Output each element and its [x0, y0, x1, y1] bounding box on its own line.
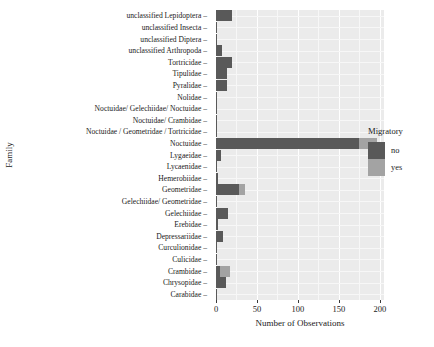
bar-segment-no [216, 219, 218, 230]
y-axis-tick-label: Curculionidae – [14, 243, 214, 252]
gridline-horizontal [216, 16, 384, 17]
bar-row [216, 208, 228, 219]
bar-segment-no [216, 34, 217, 45]
gridline-horizontal [216, 271, 384, 272]
bar-row [216, 231, 223, 242]
bar-segment-no [216, 196, 217, 207]
bar-segment-no [216, 184, 239, 195]
legend-item[interactable]: yes [368, 159, 434, 176]
bar-row [216, 219, 218, 230]
legend-items: noyes [368, 142, 434, 176]
x-axis-tick-label: 100 [292, 304, 305, 314]
gridline-horizontal [216, 236, 384, 237]
bar-row [216, 92, 217, 103]
bar-segment-no [216, 277, 226, 288]
bar-segment-no [216, 150, 221, 161]
gridline-horizontal [216, 259, 384, 260]
bar-row [216, 289, 217, 300]
gridline-horizontal [216, 283, 384, 284]
y-axis-title-text: Family [4, 142, 14, 168]
x-axis-tick-labels: 050100150200 [216, 304, 384, 316]
bar-row [216, 196, 217, 207]
x-axis-tick [216, 300, 217, 303]
gridline-horizontal [216, 294, 384, 295]
gridline-horizontal [216, 120, 384, 121]
gridline-horizontal [216, 109, 384, 110]
y-axis-tick-label: Noctuidae / Geometridae / Tortricidae – [14, 127, 214, 136]
bar-row [216, 173, 218, 184]
bar-segment-no [216, 231, 223, 242]
bar-row [216, 80, 227, 91]
legend-swatch-no [368, 142, 385, 159]
y-axis-tick-label: unclassified Arthropoda – [14, 46, 214, 55]
x-axis-tick-label: 150 [333, 304, 346, 314]
bar-row [216, 184, 246, 195]
x-axis-tick [380, 300, 381, 303]
bar-segment-no [216, 254, 217, 265]
bar-row [216, 22, 217, 33]
y-axis-tick-label: Geometridae – [14, 185, 214, 194]
x-axis-tick [298, 300, 299, 303]
gridline-horizontal [216, 167, 384, 168]
bar-row [216, 266, 230, 277]
gridline-horizontal [216, 225, 384, 226]
y-axis-tick-label: Noctuidae – [14, 139, 214, 148]
x-axis-title: Number of Observations [216, 318, 384, 328]
bar-segment-no [216, 45, 222, 56]
bar-row [216, 254, 217, 265]
bar-row [216, 45, 222, 56]
bar-segment-no [216, 126, 217, 137]
bar-segment-no [216, 138, 359, 149]
y-axis-tick-label: Tortricidae – [14, 58, 214, 67]
x-axis-tick-label: 200 [374, 304, 387, 314]
gridline-horizontal [216, 97, 384, 98]
y-axis-tick-label: Tipulidae – [14, 69, 214, 78]
gridline-horizontal [216, 213, 384, 214]
x-axis-tick [339, 300, 340, 303]
legend-title: Migratory [368, 126, 434, 136]
bar-row [216, 10, 232, 21]
bar-row [216, 68, 227, 79]
x-axis-tick [257, 300, 258, 303]
y-axis-tick-label: Lycaenidae – [14, 162, 214, 171]
bar-segment-no [216, 22, 217, 33]
bar-segment-yes [220, 266, 230, 277]
bar-row [216, 277, 226, 288]
y-axis-tick-label: Carabidae – [14, 290, 214, 299]
bar-row [216, 161, 217, 172]
bar-row [216, 57, 232, 68]
gridline-horizontal [216, 201, 384, 202]
legend-label: yes [391, 163, 402, 172]
bar-chart: Family unclassified Lepidoptera –unclass… [0, 0, 434, 347]
bar-segment-no [216, 68, 227, 79]
y-axis-tick-label: Nolidae – [14, 93, 214, 102]
x-axis-tick-label: 0 [214, 304, 218, 314]
gridline-horizontal [216, 248, 384, 249]
bar-row [216, 126, 217, 137]
legend-item[interactable]: no [368, 142, 434, 159]
y-axis-tick-label: Noctuidae/ Crambidae – [14, 116, 214, 125]
gridline-horizontal [216, 74, 384, 75]
gridline-horizontal [216, 39, 384, 40]
bar-segment-no [216, 161, 217, 172]
bar-segment-no [216, 103, 217, 114]
bar-row [216, 103, 217, 114]
y-axis-tick-label: Crambidae – [14, 267, 214, 276]
legend-swatch-yes [368, 159, 385, 176]
y-axis-tick-label: unclassified Insecta – [14, 23, 214, 32]
bar-segment-yes [239, 184, 246, 195]
bar-row [216, 138, 377, 149]
gridline-horizontal [216, 178, 384, 179]
bar-segment-no [216, 208, 228, 219]
bar-segment-no [216, 289, 217, 300]
y-axis-tick-label: Chrysopidae – [14, 278, 214, 287]
y-axis-tick-label: Culicidae – [14, 255, 214, 264]
y-axis-tick-label: Gelechiidae/ Geometridae – [14, 197, 214, 206]
bar-segment-no [216, 80, 227, 91]
bar-row [216, 242, 217, 253]
legend: Migratory noyes [368, 126, 434, 176]
plot-panel [216, 10, 384, 300]
bar-segment-no [216, 10, 232, 21]
y-axis-tick-label: Lygaeidae – [14, 151, 214, 160]
gridline-horizontal [216, 27, 384, 28]
